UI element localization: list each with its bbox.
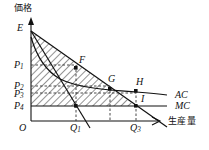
point-label-i: I — [141, 94, 144, 104]
point-label-h: H — [136, 77, 143, 87]
point-label-g: G — [108, 74, 115, 84]
origin-label: O — [19, 123, 26, 133]
y-tick-p4-sub: 4 — [20, 104, 24, 112]
chart-canvas — [0, 0, 209, 150]
x-tick-q1-sub: 1 — [77, 126, 81, 134]
point-marker-f — [74, 66, 78, 70]
y-tick-p4: P4 — [14, 101, 24, 112]
y-tick-p1-sub: 1 — [20, 63, 24, 71]
average-cost-label: AC — [175, 90, 188, 100]
point-marker-g — [108, 87, 112, 91]
y-tick-p3: P3 — [14, 89, 24, 100]
y-tick-p1: P1 — [14, 60, 24, 71]
point-marker-h — [134, 89, 138, 93]
marginal-cost-label: MC — [175, 101, 190, 111]
x-tick-q1: Q1 — [70, 123, 81, 134]
x-tick-q3-sub: 3 — [137, 126, 141, 134]
point-marker-i — [134, 104, 138, 108]
x-tick-q3: Q3 — [130, 123, 141, 134]
point-label-f: F — [79, 55, 85, 65]
y-tick-p3-sub: 3 — [20, 92, 24, 100]
economics-diagram: 価格 生産量 O E F G H I AC MC P1 P2 P3 P4 Q1 … — [0, 0, 209, 150]
y-axis-label: 価格 — [14, 4, 33, 13]
point-marker-mr-mc — [74, 104, 78, 108]
point-label-e: E — [17, 23, 23, 33]
x-axis-label: 生産量 — [168, 117, 196, 126]
